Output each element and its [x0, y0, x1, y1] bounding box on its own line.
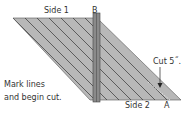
side1-label: Side 1	[44, 6, 69, 16]
point-b-label: B	[92, 6, 98, 16]
cut-label: Cut 5˝.	[153, 57, 181, 67]
point-a-label: A	[164, 101, 169, 111]
side2-label: Side 2	[125, 101, 150, 111]
instruction-line-1: Mark lines	[4, 80, 45, 90]
instruction-line-2: and begin cut.	[4, 93, 62, 103]
